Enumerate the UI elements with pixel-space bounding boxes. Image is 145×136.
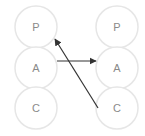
node-label: C (32, 102, 40, 114)
node-left-c: C (15, 87, 57, 129)
node-label: P (32, 21, 39, 33)
node-label: A (113, 62, 121, 74)
node-right-a: A (96, 47, 138, 89)
node-left-a: A (15, 47, 57, 89)
edge-right-c-to-left-p (55, 39, 98, 108)
node-left-p: P (15, 6, 57, 48)
node-label: A (32, 62, 40, 74)
node-label: P (113, 21, 120, 33)
node-right-c: C (96, 87, 138, 129)
diagram-canvas: P A C P A C (0, 0, 145, 136)
node-label: C (113, 102, 121, 114)
node-right-p: P (96, 6, 138, 48)
